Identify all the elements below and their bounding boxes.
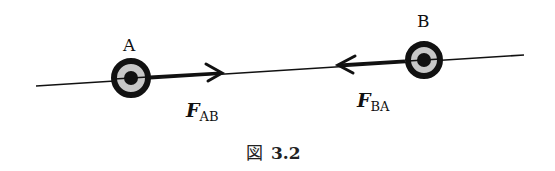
caption-prefix: 図 — [246, 143, 263, 163]
line-of-action — [36, 55, 524, 86]
particle-b-core — [417, 53, 431, 67]
caption-number: 3.2 — [271, 143, 301, 163]
figure-caption: 図3.2 — [246, 143, 301, 163]
force-diagram: A B FAB FBA 図3.2 — [0, 0, 555, 171]
force-ba-shaft — [339, 61, 405, 65]
force-ab-subscript: AB — [199, 109, 219, 124]
particle-b — [408, 44, 440, 76]
particle-a — [114, 61, 148, 95]
particle-a-label: A — [122, 35, 136, 55]
particle-b-label: B — [417, 11, 430, 31]
force-ba-label: FBA — [356, 89, 390, 114]
force-ab-label: FAB — [185, 99, 218, 124]
force-ba-subscript: BA — [371, 99, 391, 114]
particle-a-core — [124, 71, 138, 85]
force-ab-shaft — [150, 73, 221, 77]
